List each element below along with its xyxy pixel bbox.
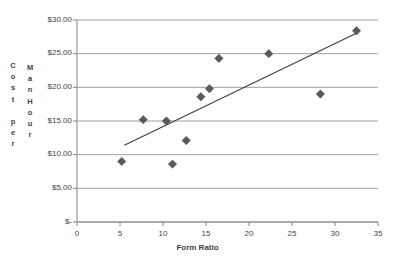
data-point-marker xyxy=(168,160,176,168)
data-point-marker xyxy=(205,84,213,92)
gridlines xyxy=(77,20,378,222)
data-point-marker xyxy=(352,27,360,35)
trendline-segment xyxy=(124,33,357,145)
data-point-marker xyxy=(118,157,126,165)
data-point-marker xyxy=(316,90,324,98)
data-point-marker xyxy=(197,93,205,101)
plot-area xyxy=(0,0,395,265)
data-point-marker xyxy=(139,115,147,123)
axis-ticks xyxy=(73,20,378,226)
data-point-marker xyxy=(182,136,190,144)
data-points xyxy=(118,27,361,169)
data-point-marker xyxy=(265,49,273,57)
trendline xyxy=(124,33,357,145)
scatter-chart: C o s t p e r M a n H o u r $-$5.00$10.0… xyxy=(0,0,395,265)
data-point-marker xyxy=(215,54,223,62)
